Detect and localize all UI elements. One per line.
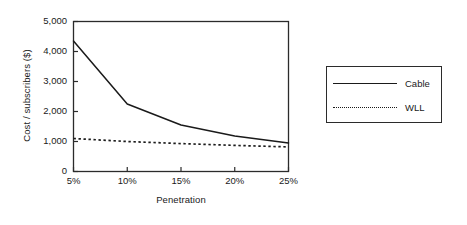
legend-item-cable: Cable [327,76,441,90]
legend-label-cable: Cable [405,78,430,89]
legend-line-sample-dotted-icon [333,101,397,113]
legend-label-wll: WLL [405,102,425,113]
series-line-wll [74,139,289,147]
series-line-cable [74,41,289,143]
plot-frame [74,22,289,172]
legend-item-wll: WLL [327,100,441,114]
plot-frame-rect [74,22,289,172]
data-series-group [74,41,289,147]
chart-legend: Cable WLL [326,66,442,123]
axis-tick-marks [74,22,289,172]
chart-figure: Cost / subscribers ($) Penetration 01,00… [0,0,467,225]
legend-line-sample-solid-icon [333,77,397,89]
